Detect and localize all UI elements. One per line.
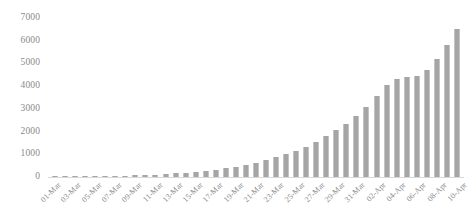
bar-slot	[191, 18, 201, 177]
y-axis-tick-label: 2000	[21, 127, 40, 137]
bar	[424, 70, 430, 177]
bar	[283, 154, 289, 177]
bar-slot	[140, 18, 150, 177]
bar-slot	[432, 18, 442, 177]
bar-slot	[241, 18, 251, 177]
x-axis-tick-label: 23-Mar	[263, 181, 286, 204]
bar-slot	[120, 18, 130, 177]
bar	[273, 157, 279, 177]
bar	[434, 59, 440, 177]
bar	[263, 160, 269, 177]
bar-slot	[422, 18, 432, 177]
bar-slot	[90, 18, 100, 177]
bar-series	[48, 18, 464, 177]
x-axis-tick-label: 21-Mar	[243, 181, 266, 204]
x-axis-tick-label: 08-Apr	[426, 181, 448, 203]
bar-slot	[281, 18, 291, 177]
x-axis-tick-label: 31-Mar	[344, 181, 367, 204]
bar-slot	[361, 18, 371, 177]
x-axis-tick-label: 03-Mar	[60, 181, 83, 204]
bar-slot	[291, 18, 301, 177]
x-axis-tick-label: 04-Apr	[385, 181, 407, 203]
x-axis-tick-label: 19-Mar	[222, 181, 245, 204]
y-axis-tick-label: 5000	[21, 59, 40, 69]
y-axis-tick-label: 3000	[21, 104, 40, 114]
bar-slot	[110, 18, 120, 177]
bar	[313, 142, 319, 177]
bar-slot	[60, 18, 70, 177]
x-axis-tick-label: 10-Apr	[446, 181, 468, 203]
bar-slot	[442, 18, 452, 177]
bar	[293, 151, 299, 177]
bar-slot	[50, 18, 60, 177]
bar-slot	[231, 18, 241, 177]
bar	[343, 124, 349, 177]
y-axis-tick-label: 4000	[21, 81, 40, 91]
x-axis-tick-label: 07-Mar	[101, 181, 124, 204]
bar-slot	[80, 18, 90, 177]
bar	[353, 116, 359, 177]
bar	[213, 170, 219, 177]
bar-slot	[271, 18, 281, 177]
bar-slot	[311, 18, 321, 177]
bar	[323, 136, 329, 177]
x-axis-tick-label: 17-Mar	[202, 181, 225, 204]
x-axis-tick-label: 29-Mar	[324, 181, 347, 204]
bar	[253, 163, 259, 177]
bar	[384, 85, 390, 177]
y-axis-tick-label: 1000	[21, 150, 40, 160]
bar-slot	[301, 18, 311, 177]
bar-chart: 70006000500040003000200010000 01-Mar03-M…	[0, 0, 468, 223]
bar-slot	[321, 18, 331, 177]
bar-slot	[161, 18, 171, 177]
bar-slot	[382, 18, 392, 177]
y-axis-tick-label: 7000	[21, 13, 40, 23]
bar-slot	[251, 18, 261, 177]
bar	[444, 45, 450, 177]
bar-slot	[211, 18, 221, 177]
plot-area	[48, 18, 464, 177]
x-axis-tick-label: 05-Mar	[80, 181, 103, 204]
x-axis-tick-label: 27-Mar	[303, 181, 326, 204]
bar-slot	[261, 18, 271, 177]
x-axis-tick-label: 15-Mar	[182, 181, 205, 204]
x-axis-tick-label: 11-Mar	[141, 181, 164, 204]
bar	[394, 79, 400, 177]
bar-slot	[221, 18, 231, 177]
x-axis-tick-label: 09-Mar	[121, 181, 144, 204]
x-axis-tick-label: 13-Mar	[161, 181, 184, 204]
bar-slot	[341, 18, 351, 177]
bar-slot	[392, 18, 402, 177]
bar-slot	[130, 18, 140, 177]
bar-slot	[171, 18, 181, 177]
bar	[233, 167, 239, 177]
bar	[454, 29, 460, 177]
bar	[414, 76, 420, 177]
bar	[243, 165, 249, 177]
y-axis-tick-label: 0	[35, 172, 40, 182]
bar-slot	[150, 18, 160, 177]
x-axis: 01-Mar03-Mar05-Mar07-Mar09-Mar11-Mar13-M…	[48, 178, 464, 223]
bar	[223, 168, 229, 177]
bar-slot	[351, 18, 361, 177]
bar-slot	[100, 18, 110, 177]
x-axis-tick-label: 06-Apr	[406, 181, 428, 203]
y-axis-tick-label: 6000	[21, 36, 40, 46]
bar	[363, 107, 369, 177]
bar-slot	[402, 18, 412, 177]
y-axis: 70006000500040003000200010000	[0, 0, 48, 223]
bar-slot	[181, 18, 191, 177]
bar-slot	[70, 18, 80, 177]
bar	[404, 77, 410, 177]
x-axis-tick-label: 25-Mar	[283, 181, 306, 204]
bar-slot	[372, 18, 382, 177]
x-axis-tick-label: 02-Apr	[365, 181, 387, 203]
bar-slot	[331, 18, 341, 177]
bar-slot	[412, 18, 422, 177]
bar	[333, 130, 339, 177]
bar	[303, 147, 309, 177]
bar-slot	[201, 18, 211, 177]
bar-slot	[452, 18, 462, 177]
bar	[374, 96, 380, 177]
